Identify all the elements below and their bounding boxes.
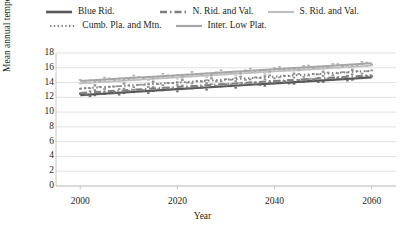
x-tick-label: 2040	[255, 196, 295, 206]
y-tick-label: 2	[30, 166, 54, 176]
y-tick-label: 6	[30, 137, 54, 147]
chart-root: Blue Rid. N. Rid. and Val. S. Rid. and V…	[0, 0, 405, 232]
y-tick-label: 0	[30, 181, 54, 191]
plot-area: 024681012141618 2000202020402060	[0, 0, 405, 232]
y-tick-label: 16	[30, 63, 54, 73]
x-tick-label: 2060	[352, 196, 392, 206]
y-tick-label: 18	[30, 48, 54, 58]
y-tick-label: 10	[30, 107, 54, 117]
x-tick-label: 2000	[60, 196, 100, 206]
y-tick-label: 12	[30, 92, 54, 102]
x-tick-label: 2020	[157, 196, 197, 206]
x-axis-title: Year	[0, 211, 405, 221]
x-axis-ticks: 2000202020402060	[0, 196, 405, 210]
y-tick-label: 14	[30, 78, 54, 88]
y-tick-label: 8	[30, 122, 54, 132]
y-tick-label: 4	[30, 151, 54, 161]
